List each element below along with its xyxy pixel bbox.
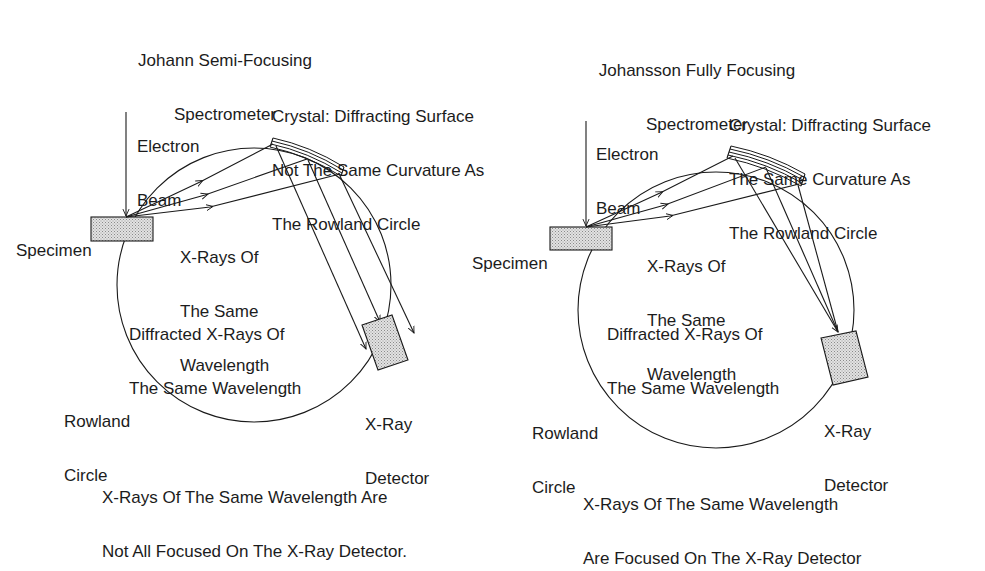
specimen-label: Specimen [472,255,548,273]
electron-beam-label: Electron Beam [137,102,199,228]
label-line: Diffracted X-Rays Of [607,326,779,344]
crystal-label: Crystal: Diffracting Surface Not The Sam… [272,72,484,252]
label-line: Electron [596,146,658,164]
label-line: X-Ray [365,416,429,434]
diffracted-label: Diffracted X-Rays Of The Same Wavelength [129,290,301,416]
right-caption: X-Rays Of The Same Wavelength Are Focuse… [583,460,861,571]
caption-line: X-Rays Of The Same Wavelength Are [102,489,407,507]
label-line: Not The Same Curvature As [272,162,484,180]
label-line: X-Rays Of [180,249,269,267]
electron-beam-label: Electron Beam [596,110,658,236]
caption-line: Are Focused On The X-Ray Detector [583,550,861,568]
specimen-label: Specimen [16,242,92,260]
xray-detector-johann [362,315,408,370]
title-line: Johansson Fully Focusing [577,62,817,80]
label-line: Rowland [532,425,598,443]
title-line: Johann Semi-Focusing [130,52,320,70]
label-line: The Same Wavelength [129,380,301,398]
label-line: X-Ray [824,423,888,441]
diffracted-label: Diffracted X-Rays Of The Same Wavelength [607,290,779,416]
label-line: The Same Wavelength [607,380,779,398]
label-line: Electron [137,138,199,156]
xray-detector-johansson [821,331,868,385]
label-line: Beam [137,192,199,210]
left-caption: X-Rays Of The Same Wavelength Are Not Al… [102,453,407,571]
label-line: X-Rays Of [647,258,736,276]
label-line: Rowland [64,413,130,431]
label-line: Diffracted X-Rays Of [129,326,301,344]
label-line: The Rowland Circle [272,216,484,234]
caption-line: X-Rays Of The Same Wavelength [583,496,861,514]
label-line: The Same Curvature As [729,171,931,189]
label-line: Crystal: Diffracting Surface [729,117,931,135]
label-line: Crystal: Diffracting Surface [272,108,484,126]
label-line: Beam [596,200,658,218]
label-line: The Rowland Circle [729,225,931,243]
caption-line: Not All Focused On The X-Ray Detector. [102,543,407,561]
crystal-label: Crystal: Diffracting Surface The Same Cu… [729,81,931,261]
